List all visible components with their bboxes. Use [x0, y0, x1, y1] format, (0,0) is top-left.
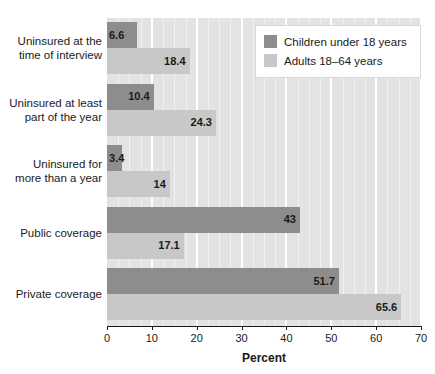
x-tick-label: 60 [370, 332, 382, 344]
bar-value-label: 51.7 [313, 276, 334, 287]
legend-swatch-icon-adults [264, 54, 277, 67]
category-label: Public coverage [0, 226, 102, 240]
category-label-line: Public coverage [0, 226, 102, 240]
bar-children: 3.4 [107, 145, 122, 171]
bar-children: 51.7 [107, 268, 339, 294]
bar-adults: 18.4 [107, 48, 190, 74]
legend-label-adults: Adults 18–64 years [284, 55, 382, 67]
bar-chart: 6.618.410.424.33.4144317.151.765.6 Unins… [0, 0, 435, 374]
category-label: Uninsured at leastpart of the year [0, 96, 102, 124]
bar-children: 43 [107, 207, 300, 233]
bar-children: 10.4 [107, 84, 154, 110]
bar-value-label: 18.4 [164, 56, 185, 67]
category-label: Uninsured formore than a year [0, 157, 102, 185]
x-tick-label: 70 [415, 332, 427, 344]
x-axis-title: Percent [107, 351, 421, 365]
x-axis-line [107, 326, 421, 327]
bar-adults: 17.1 [107, 233, 184, 259]
bar-adults: 14 [107, 171, 170, 197]
legend-label-children: Children under 18 years [284, 36, 407, 48]
x-tick [242, 326, 243, 330]
legend-swatch-icon-children [264, 35, 277, 48]
category-label: Uninsured at thetime of interview [0, 34, 102, 62]
bar-adults: 65.6 [107, 294, 401, 320]
x-tick [421, 326, 422, 330]
x-tick-label: 10 [146, 332, 158, 344]
legend-item-children[interactable]: Children under 18 years [264, 32, 420, 51]
x-tick-label: 30 [235, 332, 247, 344]
bar-value-label: 24.3 [191, 117, 212, 128]
category-label-line: Uninsured at least [0, 96, 102, 110]
bar-value-label: 6.6 [109, 30, 124, 41]
x-tick [197, 326, 198, 330]
bar-value-label: 14 [154, 179, 166, 190]
category-label-line: part of the year [0, 110, 102, 124]
bar-value-label: 3.4 [109, 153, 124, 164]
bar-adults: 24.3 [107, 110, 216, 136]
category-label-line: more than a year [0, 171, 102, 185]
x-tick-label: 0 [104, 332, 110, 344]
bar-value-label: 65.6 [376, 302, 397, 313]
bar-value-label: 10.4 [128, 91, 149, 102]
legend-item-adults[interactable]: Adults 18–64 years [264, 51, 420, 70]
bar-children: 6.6 [107, 22, 137, 48]
x-tick-label: 20 [191, 332, 203, 344]
x-tick-label: 50 [325, 332, 337, 344]
x-tick [286, 326, 287, 330]
bar-value-label: 17.1 [158, 240, 179, 251]
category-label-line: Uninsured for [0, 157, 102, 171]
x-tick [107, 326, 108, 330]
bar-value-label: 43 [284, 214, 296, 225]
category-label: Private coverage [0, 287, 102, 301]
legend: Children under 18 years Adults 18–64 yea… [255, 25, 421, 78]
category-label-line: time of interview [0, 48, 102, 62]
category-label-line: Uninsured at the [0, 34, 102, 48]
x-tick [152, 326, 153, 330]
x-tick [331, 326, 332, 330]
x-tick-label: 40 [280, 332, 292, 344]
x-tick [376, 326, 377, 330]
category-label-line: Private coverage [0, 287, 102, 301]
